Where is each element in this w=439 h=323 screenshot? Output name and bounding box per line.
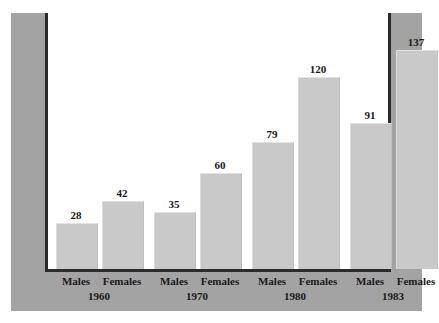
- x-label-1970-males: Males: [151, 274, 197, 288]
- bar-value-1980-females: 120: [298, 63, 338, 75]
- chart-page: 28 42 35 60 79 120 91 137 Males: [0, 0, 439, 323]
- bar-1983-males[interactable]: [350, 123, 392, 269]
- x-axis-labels: Males Females Males Females Males Female…: [11, 274, 422, 311]
- x-label-1983-females: Females: [393, 274, 439, 288]
- x-group-label-1983: 1983: [349, 289, 437, 303]
- bar-value-1960-females: 42: [102, 187, 142, 199]
- bar-1960-males[interactable]: [56, 223, 98, 269]
- x-group-label-1980: 1980: [251, 289, 339, 303]
- x-label-1983-males: Males: [347, 274, 393, 288]
- bar-value-1983-males: 91: [350, 109, 390, 121]
- x-group-label-1960: 1960: [55, 289, 143, 303]
- bar-value-1960-males: 28: [56, 209, 96, 221]
- bars-layer: 28 42 35 60 79 120 91 137: [11, 13, 422, 271]
- x-group-label-1970: 1970: [153, 289, 241, 303]
- bar-1960-females[interactable]: [102, 201, 144, 269]
- x-label-1960-males: Males: [53, 274, 99, 288]
- x-label-1960-females: Females: [99, 274, 145, 288]
- x-label-1970-females: Females: [197, 274, 243, 288]
- bar-1980-females[interactable]: [298, 77, 340, 269]
- figure-panel: 28 42 35 60 79 120 91 137 Males: [11, 13, 422, 311]
- bar-value-1980-males: 79: [252, 128, 292, 140]
- bar-1983-females[interactable]: [396, 50, 438, 269]
- bar-value-1970-males: 35: [154, 198, 194, 210]
- bar-value-1983-females: 137: [396, 36, 436, 48]
- x-label-1980-males: Males: [249, 274, 295, 288]
- bar-1970-females[interactable]: [200, 173, 242, 269]
- x-label-1980-females: Females: [295, 274, 341, 288]
- bar-value-1970-females: 60: [200, 159, 240, 171]
- bar-1980-males[interactable]: [252, 142, 294, 269]
- bar-1970-males[interactable]: [154, 212, 196, 269]
